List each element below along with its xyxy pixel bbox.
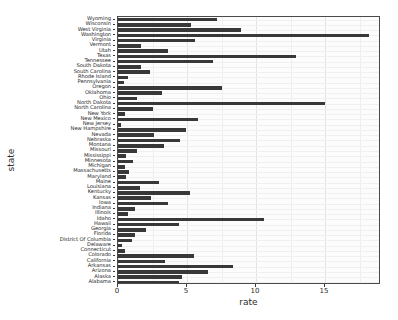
bar bbox=[118, 233, 135, 237]
y-axis-tick-mark bbox=[113, 82, 115, 83]
bar bbox=[118, 223, 179, 227]
bar bbox=[118, 55, 296, 59]
y-axis-tick-mark bbox=[113, 87, 115, 88]
y-axis-tick-labels: WyomingWisconsinWest VirginiaWashingtonV… bbox=[18, 16, 115, 284]
bar bbox=[118, 70, 150, 74]
y-axis-tick-mark bbox=[113, 92, 115, 93]
x-axis-tick-label: 15 bbox=[320, 287, 329, 295]
plot-panel bbox=[117, 16, 380, 284]
y-axis-tick-mark bbox=[113, 103, 115, 104]
y-axis-tick-mark bbox=[113, 234, 115, 235]
y-axis-tick-mark bbox=[113, 266, 115, 267]
bar bbox=[118, 154, 126, 158]
bar bbox=[118, 39, 195, 43]
y-axis-tick-mark bbox=[113, 71, 115, 72]
bar bbox=[118, 186, 140, 190]
y-axis-tick-mark bbox=[113, 245, 115, 246]
bar-chart: state WyomingWisconsinWest VirginiaWashi… bbox=[0, 0, 398, 320]
bar bbox=[118, 34, 369, 38]
y-axis-tick-mark bbox=[113, 203, 115, 204]
y-axis-tick-mark bbox=[113, 239, 115, 240]
y-axis-tick-mark bbox=[113, 50, 115, 51]
y-axis-tick-mark bbox=[113, 171, 115, 172]
bar bbox=[118, 275, 182, 279]
y-axis-tick-mark bbox=[113, 224, 115, 225]
bar bbox=[118, 196, 151, 200]
bar bbox=[118, 107, 153, 111]
y-axis-tick-mark bbox=[113, 40, 115, 41]
bar bbox=[118, 165, 125, 169]
y-axis-tick-mark bbox=[113, 276, 115, 277]
bar bbox=[118, 244, 122, 248]
y-axis-tick-mark bbox=[113, 76, 115, 77]
bar bbox=[118, 118, 198, 122]
y-axis-tick-mark bbox=[113, 166, 115, 167]
bar bbox=[118, 228, 146, 232]
bar bbox=[118, 149, 137, 153]
bar bbox=[118, 170, 129, 174]
bar bbox=[118, 139, 180, 143]
x-axis-title: rate bbox=[117, 297, 380, 307]
bar bbox=[118, 44, 141, 48]
bar bbox=[118, 218, 264, 222]
y-axis-tick-mark bbox=[113, 118, 115, 119]
y-axis-tick-mark bbox=[113, 97, 115, 98]
bar bbox=[118, 49, 168, 53]
x-axis-tick-label: 0 bbox=[115, 287, 119, 295]
bar bbox=[118, 76, 128, 80]
bar bbox=[118, 97, 137, 101]
bar bbox=[118, 23, 191, 27]
bar bbox=[118, 91, 162, 95]
y-axis-tick-mark bbox=[113, 281, 115, 282]
y-axis-tick-mark bbox=[113, 271, 115, 272]
y-axis-tick-mark bbox=[113, 260, 115, 261]
y-axis-tick-mark bbox=[113, 155, 115, 156]
y-axis-tick-mark bbox=[113, 145, 115, 146]
y-axis-tick-mark bbox=[113, 29, 115, 30]
y-axis-tick-mark bbox=[113, 19, 115, 20]
y-axis-tick-mark bbox=[113, 208, 115, 209]
y-axis-tick-mark bbox=[113, 250, 115, 251]
bar bbox=[118, 133, 154, 137]
y-axis-tick-mark bbox=[113, 182, 115, 183]
bar bbox=[118, 160, 133, 164]
y-axis-tick-mark bbox=[113, 24, 115, 25]
bar bbox=[118, 265, 233, 269]
y-axis-tick-mark bbox=[113, 150, 115, 151]
bar bbox=[118, 207, 135, 211]
y-axis-tick-mark bbox=[113, 192, 115, 193]
y-axis-tick-mark bbox=[113, 61, 115, 62]
bar bbox=[118, 128, 186, 132]
gridline-major-vertical bbox=[325, 17, 326, 283]
bar bbox=[118, 181, 159, 185]
y-axis-tick-mark bbox=[113, 134, 115, 135]
bar bbox=[118, 18, 217, 22]
bar bbox=[118, 81, 124, 85]
y-axis-tick-mark bbox=[113, 229, 115, 230]
bar bbox=[118, 123, 121, 127]
bar bbox=[118, 270, 208, 274]
bar bbox=[118, 191, 190, 195]
y-axis-tick-mark bbox=[113, 213, 115, 214]
bar bbox=[118, 254, 194, 258]
bar bbox=[118, 28, 241, 32]
y-axis-tick-mark bbox=[113, 34, 115, 35]
x-axis-tick-label: 5 bbox=[184, 287, 188, 295]
y-axis-tick-mark bbox=[113, 66, 115, 67]
bar bbox=[118, 260, 165, 264]
bar bbox=[118, 102, 325, 106]
bar bbox=[118, 112, 125, 116]
bar bbox=[118, 212, 128, 216]
bar bbox=[118, 60, 213, 64]
bar bbox=[118, 65, 141, 69]
y-axis-tick-label: Alabama bbox=[88, 279, 111, 284]
y-axis-tick-mark bbox=[113, 129, 115, 130]
y-axis-tick-mark bbox=[113, 124, 115, 125]
y-axis-tick-mark bbox=[113, 255, 115, 256]
y-axis-tick-mark bbox=[113, 139, 115, 140]
y-axis-tick-mark bbox=[113, 108, 115, 109]
y-axis-tick-mark bbox=[113, 161, 115, 162]
gridline-minor-vertical bbox=[360, 17, 361, 283]
y-axis-tick-mark bbox=[113, 187, 115, 188]
y-axis-tick-mark bbox=[113, 55, 115, 56]
